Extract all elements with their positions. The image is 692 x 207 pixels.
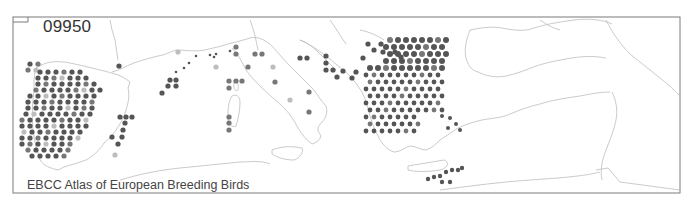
atlas-credit-label: EBCC Atlas of European Breeding Birds	[27, 178, 249, 192]
distribution-map	[0, 0, 692, 207]
species-code-label: 09950	[43, 17, 91, 37]
map-border	[13, 17, 680, 193]
